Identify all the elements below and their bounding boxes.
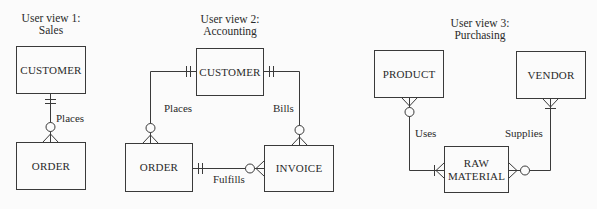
v2-entity-order[interactable]: ORDER bbox=[125, 143, 193, 192]
v3-entity-raw-material-line1: RAW bbox=[464, 157, 489, 170]
v1-rel-places-label: Places bbox=[56, 112, 84, 124]
v2-entity-invoice-label: INVOICE bbox=[276, 162, 323, 175]
v3-entity-vendor-label: VENDOR bbox=[527, 69, 574, 82]
v2-rel-places-label: Places bbox=[164, 102, 192, 114]
view1-title-line2: Sales bbox=[0, 24, 111, 36]
v3-rel-uses-label: Uses bbox=[415, 127, 436, 139]
view2-title: User view 2: Accounting bbox=[170, 13, 290, 37]
view3-title: User view 3: Purchasing bbox=[420, 17, 540, 41]
v3-entity-vendor[interactable]: VENDOR bbox=[516, 51, 586, 99]
v2-entity-customer[interactable]: CUSTOMER bbox=[196, 48, 264, 96]
v2-entity-invoice[interactable]: INVOICE bbox=[264, 145, 334, 192]
v1-entity-order[interactable]: ORDER bbox=[16, 142, 86, 190]
view1-title-line1: User view 1: bbox=[0, 12, 111, 24]
v2-rel-fulfills-label: Fulfills bbox=[213, 173, 245, 185]
v1-entity-customer[interactable]: CUSTOMER bbox=[16, 46, 86, 94]
v3-entity-product-label: PRODUCT bbox=[383, 68, 436, 81]
v3-entity-product[interactable]: PRODUCT bbox=[374, 50, 444, 98]
v2-entity-customer-label: CUSTOMER bbox=[199, 66, 260, 79]
v3-rel-supplies-label: Supplies bbox=[505, 127, 543, 139]
v3-entity-raw-material-line2: MATERIAL bbox=[448, 170, 505, 183]
v2-rel-bills-label: Bills bbox=[273, 102, 294, 114]
v1-entity-order-label: ORDER bbox=[32, 160, 70, 173]
view3-title-line1: User view 3: bbox=[420, 17, 540, 29]
view1-title: User view 1: Sales bbox=[0, 12, 111, 36]
view2-title-line2: Accounting bbox=[170, 25, 290, 37]
v1-entity-customer-label: CUSTOMER bbox=[20, 64, 81, 77]
view3-title-line2: Purchasing bbox=[420, 29, 540, 41]
view2-title-line1: User view 2: bbox=[170, 13, 290, 25]
v3-entity-raw-material[interactable]: RAW MATERIAL bbox=[444, 146, 509, 193]
v2-entity-order-label: ORDER bbox=[140, 161, 178, 174]
